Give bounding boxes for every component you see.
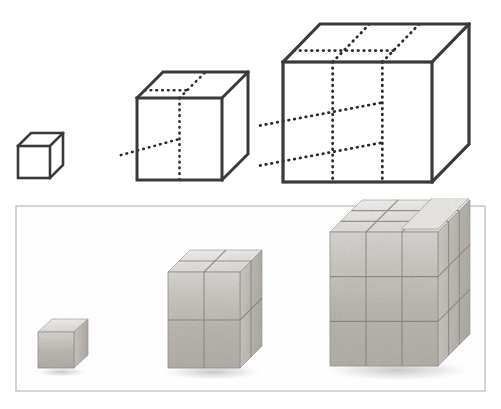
line-drawing-svg xyxy=(0,0,501,200)
cube-1x1 xyxy=(18,133,63,178)
figure-root: Line drawings of three cubes of edge len… xyxy=(0,0,501,409)
photograph-panel xyxy=(0,198,501,409)
cube-2x2 xyxy=(121,72,248,180)
cube-3x3 xyxy=(260,24,469,182)
photograph-svg xyxy=(0,198,501,409)
cube-front-face xyxy=(283,62,432,182)
stack-shadow xyxy=(36,367,86,377)
cube-front-face xyxy=(18,146,50,178)
stack-front-face xyxy=(330,232,438,366)
line-drawing-panel xyxy=(0,0,501,200)
photo-stack-3x3 xyxy=(322,198,473,381)
stack-front-face xyxy=(38,332,74,368)
